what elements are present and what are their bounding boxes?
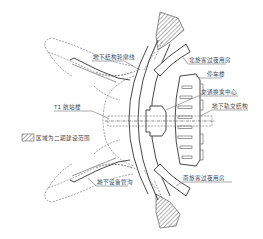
phase2-area-south [156,194,180,228]
terminal-inner-arc [129,46,148,194]
leader-underground-rail [200,110,248,116]
label-north-overnight: 北旅客过夜用房 [189,56,231,64]
terminal-site-plan: 地下结构轮廓线 北旅客过夜用房 停车楼 交通换乘中心 地下轨交结构 T1 航站楼… [0,0,263,239]
nw-pier-inner [72,64,116,82]
legend-hatch-swatch [22,134,34,141]
nw-pier-structure [70,58,130,80]
label-phase2-legend: 区域为二期建设范围 [36,134,90,142]
sw-pier-inner [72,158,116,176]
label-transport-hub: 交通换乘中心 [201,88,237,96]
label-underground-outline: 地下结构轮廓线 [93,53,135,61]
label-parking: 停车楼 [207,70,225,78]
label-south-overnight: 南旅客过夜用房 [183,174,225,182]
parking-building [175,74,200,166]
label-utility-tunnel: 地下设备管沟 [97,178,133,186]
label-t1-terminal: T1 航站楼 [53,103,81,111]
leader-t1 [54,111,108,118]
label-underground-rail: 地下轨交结构 [212,102,248,110]
